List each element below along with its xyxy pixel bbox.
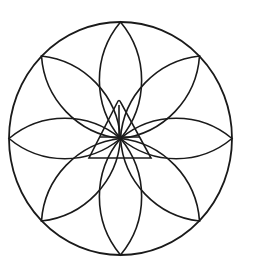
petal (42, 56, 121, 139)
petal (9, 118, 121, 158)
petal (121, 56, 200, 139)
rosette-diagram (0, 0, 253, 278)
petal (121, 139, 200, 222)
petal (121, 118, 233, 158)
center-dot (117, 135, 122, 140)
petal (99, 22, 141, 139)
petal (99, 139, 141, 256)
petal (42, 139, 121, 222)
